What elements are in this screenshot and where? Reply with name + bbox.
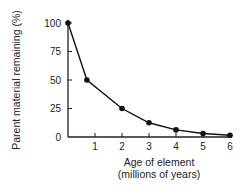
x-tick-label: 6 <box>227 141 233 152</box>
data-point <box>146 120 152 126</box>
data-point <box>119 106 125 112</box>
x-tick-label: 1 <box>92 141 98 152</box>
data-point <box>65 20 71 26</box>
data-point <box>227 132 233 138</box>
y-tick-label: 50 <box>50 75 62 86</box>
y-axis-title-group: Parent material remaining (%) <box>10 10 22 149</box>
decay-curve-chart: Parent material remaining (%) 0255075100… <box>0 0 247 190</box>
decay-curve-line <box>68 23 230 135</box>
y-tick-label: 25 <box>50 103 62 114</box>
data-point <box>200 131 206 137</box>
y-axis-title: Parent material remaining (%) <box>10 10 22 149</box>
y-tick-label: 75 <box>50 46 62 57</box>
x-tick-label: 5 <box>200 141 206 152</box>
data-point <box>173 127 179 133</box>
x-tick-label: 3 <box>146 141 152 152</box>
y-tick-label: 0 <box>55 132 61 143</box>
data-point-markers <box>65 20 233 138</box>
x-axis-title-line1: Age of element <box>124 156 195 168</box>
y-tick-label: 100 <box>44 18 61 29</box>
x-axis-ticks: 123456 <box>92 133 233 152</box>
x-tick-label: 2 <box>119 141 125 152</box>
x-tick-label: 4 <box>173 141 179 152</box>
data-point <box>84 77 90 83</box>
x-axis-title-line2: (millions of years) <box>118 168 200 180</box>
